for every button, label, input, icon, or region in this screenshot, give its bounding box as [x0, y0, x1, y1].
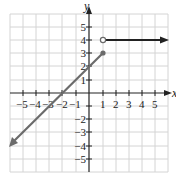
y-tick: −3 — [74, 126, 86, 138]
y-tick: 4 — [81, 34, 87, 46]
y-tick: −5 — [74, 153, 86, 165]
series-piece2 — [100, 37, 169, 44]
x-tick: −4 — [29, 98, 41, 110]
x-axis-label: x — [171, 86, 176, 100]
x-tick: 3 — [126, 98, 132, 110]
x-tick-labels: −5 −4 −3 −2 −1 1 2 3 4 5 — [16, 98, 158, 110]
x-tick: 1 — [100, 98, 106, 110]
x-tick: 4 — [139, 98, 145, 110]
y-axis-label: y — [83, 0, 90, 13]
x-tick: −2 — [56, 98, 68, 110]
x-tick: 2 — [113, 98, 119, 110]
y-tick: −4 — [74, 140, 86, 152]
y-tick: 5 — [81, 21, 87, 33]
open-dot-icon — [100, 37, 105, 42]
y-tick: −2 — [74, 113, 86, 125]
closed-dot-icon — [100, 50, 105, 55]
graph: x y −5 −4 −3 −2 −1 1 2 3 4 5 5 4 3 2 1 −… — [0, 0, 176, 183]
y-tick: 3 — [81, 47, 87, 59]
x-tick: 5 — [152, 98, 158, 110]
x-tick: −1 — [69, 98, 81, 110]
x-tick: −5 — [16, 98, 28, 110]
